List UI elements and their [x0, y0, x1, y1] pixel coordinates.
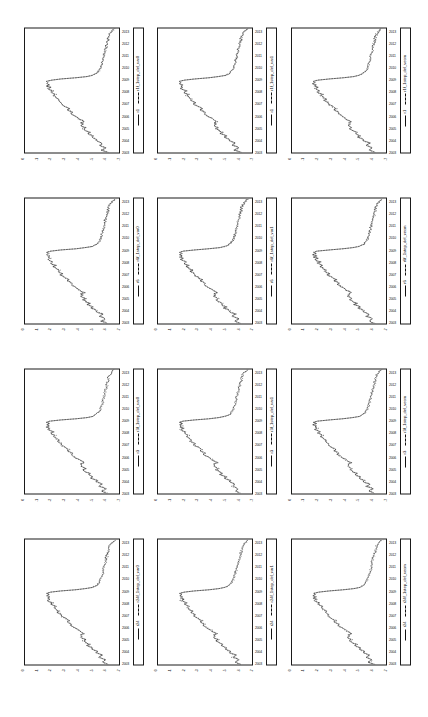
y-axis-tick-label: -6 — [238, 499, 241, 502]
x-axis-tick-label: 2011 — [389, 54, 396, 57]
legend-line-swatch-solid — [138, 628, 139, 639]
y-axis: 0-1-2-3-4-5-6-7 — [157, 497, 253, 521]
x-axis-tick-label: 2004 — [122, 309, 129, 312]
y-axis: 0-1-2-3-4-5-6-7 — [157, 326, 253, 350]
x-axis-tick-label: 2006 — [122, 115, 129, 118]
x-axis-tick-label: 2007 — [255, 273, 262, 276]
legend: r1r1f_1step_del_var1 — [266, 27, 277, 154]
legend-entry-forecast: r1f_1step_del_vecm — [403, 55, 407, 105]
y-axis-tick-label: -7 — [385, 669, 388, 672]
plot-area — [157, 27, 253, 154]
y-axis: 0-1-2-3-4-5-6-7 — [24, 497, 120, 521]
x-axis-tick-label: 2003 — [389, 151, 396, 154]
legend-line-swatch-solid — [271, 628, 272, 639]
y-axis-tick-label: -5 — [224, 499, 227, 502]
x-axis-tick-label: 2013 — [255, 30, 262, 33]
series-plot — [25, 199, 119, 324]
x-axis-tick-label: 2013 — [122, 541, 129, 544]
legend-entry-actual: r3 — [270, 449, 274, 466]
x-axis-tick-label: 2012 — [122, 553, 129, 556]
y-axis-tick-label: -3 — [63, 158, 66, 161]
legend-label-forecast: r3f_1step_del_var1 — [270, 396, 274, 431]
plot-area — [291, 368, 387, 495]
legend-line-swatch-solid — [138, 114, 139, 125]
y-axis-tick-label: -2 — [50, 499, 53, 502]
x-axis-tick-label: 2003 — [255, 492, 262, 495]
plot-area — [291, 27, 387, 154]
x-axis-tick-label: 2005 — [255, 468, 262, 471]
y-axis-tick-label: -1 — [169, 499, 172, 502]
y-axis-tick-label: -6 — [371, 328, 374, 331]
y-axis-tick-label: -7 — [252, 669, 255, 672]
legend-line-swatch-dashed — [271, 92, 272, 103]
legend-label-actual: r24 — [136, 620, 140, 626]
x-axis-tick-label: 2005 — [389, 297, 396, 300]
x-axis-tick-label: 2009 — [255, 419, 262, 422]
legend-label-actual: r3 — [136, 449, 140, 453]
x-axis-tick-label: 2004 — [255, 650, 262, 653]
y-axis-tick-label: -2 — [50, 328, 53, 331]
x-axis-tick-label: 2012 — [255, 42, 262, 45]
x-axis-tick-label: 2009 — [122, 249, 129, 252]
y-axis-tick-label: -4 — [210, 669, 213, 672]
y-axis-tick-label: -2 — [50, 669, 53, 672]
series-plot — [25, 28, 119, 153]
x-axis-tick-label: 2013 — [255, 371, 262, 374]
legend-line-swatch-dashed — [405, 264, 406, 275]
x-axis-tick-label: 2011 — [389, 565, 396, 568]
panel-r1-vecm: 0-1-2-3-4-5-6-72003200420052006200720082… — [287, 25, 410, 180]
y-axis-tick-label: -4 — [210, 158, 213, 161]
x-axis-tick-label: 2012 — [389, 553, 396, 556]
panel-r24-var0: 0-1-2-3-4-5-6-72003200420052006200720082… — [20, 537, 143, 692]
x-axis-tick-label: 2010 — [389, 66, 396, 69]
y-axis-tick-label: -7 — [385, 158, 388, 161]
x-axis-tick-label: 2005 — [389, 127, 396, 130]
y-axis: 0-1-2-3-4-5-6-7 — [157, 667, 253, 691]
legend: r3r3f_1step_del_var1 — [266, 368, 277, 495]
x-axis-tick-label: 2006 — [255, 115, 262, 118]
legend-label-actual: r1 — [403, 109, 407, 113]
y-axis-tick-label: -7 — [252, 499, 255, 502]
x-axis-tick-label: 2011 — [122, 224, 129, 227]
y-axis-tick-label: -7 — [252, 328, 255, 331]
legend-entry-actual: r1 — [270, 108, 274, 125]
x-axis-tick-label: 2007 — [122, 102, 129, 105]
series-line-forecast — [313, 28, 383, 153]
panel-r6-var1: 0-1-2-3-4-5-6-72003200420052006200720082… — [153, 196, 276, 351]
legend-line-swatch-solid — [271, 114, 272, 125]
series-line-actual — [47, 369, 115, 494]
y-axis-tick-label: -3 — [63, 669, 66, 672]
y-axis-tick-label: 0 — [156, 328, 159, 330]
y-axis-tick-label: -1 — [36, 669, 39, 672]
legend: r6r6f_1step_del_vecm — [400, 198, 411, 325]
x-axis-tick-label: 2013 — [389, 200, 396, 203]
series-plot — [25, 369, 119, 494]
series-line-actual — [312, 28, 381, 153]
x-axis-tick-label: 2003 — [122, 492, 129, 495]
y-axis-tick-label: -7 — [252, 158, 255, 161]
x-axis-tick-label: 2005 — [122, 468, 129, 471]
legend-label-actual: r6 — [270, 279, 274, 283]
legend-line-swatch-solid — [271, 455, 272, 466]
x-axis-tick-label: 2007 — [122, 614, 129, 617]
y-axis-tick-label: -6 — [105, 499, 108, 502]
series-line-forecast — [313, 540, 383, 665]
legend-line-swatch-dashed — [138, 433, 139, 444]
x-axis-tick-label: 2003 — [122, 151, 129, 154]
legend-line-swatch-solid — [405, 629, 406, 640]
x-axis-tick-label: 2012 — [122, 42, 129, 45]
y-axis-tick-label: -4 — [210, 499, 213, 502]
legend-line-swatch-solid — [405, 456, 406, 467]
y-axis-tick-label: -6 — [105, 328, 108, 331]
x-axis-tick-label: 2007 — [389, 102, 396, 105]
y-axis-tick-label: -6 — [105, 669, 108, 672]
x-axis-tick-label: 2003 — [255, 321, 262, 324]
x-axis-tick-label: 2004 — [389, 309, 396, 312]
legend: r1r1f_1step_del_vecm — [400, 27, 411, 154]
x-axis-tick-label: 2009 — [389, 419, 396, 422]
y-axis-tick-label: -6 — [238, 328, 241, 331]
x-axis-tick-label: 2012 — [255, 212, 262, 215]
plot-area — [291, 198, 387, 325]
legend-label-actual: r6 — [403, 280, 407, 284]
legend-line-swatch-dashed — [138, 92, 139, 103]
